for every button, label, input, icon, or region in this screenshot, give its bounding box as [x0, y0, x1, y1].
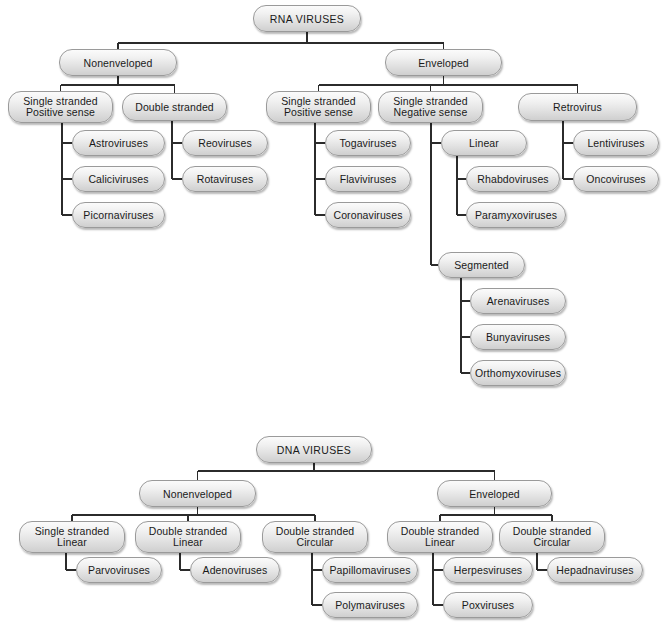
node-rna-flaviviruses: Flaviviruses [325, 166, 411, 192]
node-rna-e-ss-neg: Single stranded Negative sense [378, 91, 483, 123]
node-rna-segmented: Segmented [438, 252, 525, 278]
node-rna-caliciviruses: Caliciviruses [72, 166, 165, 192]
node-rna-root: RNA VIRUSES [253, 5, 361, 32]
node-rna-oncoviruses: Oncoviruses [573, 166, 659, 192]
node-dna-ne-ds-circular: Double stranded Circular [262, 521, 368, 553]
node-rna-rhabdoviruses: Rhabdoviruses [466, 166, 560, 192]
node-dna-root: DNA VIRUSES [256, 436, 372, 463]
node-rna-arenaviruses: Arenaviruses [470, 288, 566, 314]
node-dna-hepadnaviruses: Hepadnaviruses [547, 557, 643, 583]
node-rna-e-ss-pos: Single stranded Positive sense [266, 91, 371, 123]
node-dna-adenoviruses: Adenoviruses [190, 557, 280, 583]
node-dna-nonenveloped: Nonenveloped [139, 480, 256, 507]
node-rna-bunyaviruses: Bunyaviruses [470, 324, 566, 350]
node-rna-coronaviruses: Coronaviruses [325, 202, 411, 228]
node-rna-ne-ds: Double stranded [122, 93, 227, 121]
node-rna-enveloped: Enveloped [385, 49, 502, 76]
node-dna-enveloped: Enveloped [437, 480, 552, 507]
node-rna-lentiviruses: Lentiviruses [573, 130, 659, 156]
node-rna-astroviruses: Astroviruses [72, 130, 165, 156]
node-rna-picornaviruses: Picornaviruses [72, 202, 165, 228]
node-rna-reoviruses: Reoviruses [182, 130, 268, 156]
node-dna-e-ds-circular: Double stranded Circular [499, 521, 605, 553]
node-dna-ne-ds-linear: Double stranded Linear [135, 521, 241, 553]
node-rna-linear: Linear [441, 130, 527, 156]
virus-classification-diagram: RNA VIRUSESNonenvelopedEnvelopedSingle s… [0, 0, 665, 632]
node-rna-orthomyxoviruses: Orthomyxoviruses [470, 360, 566, 386]
node-dna-parvoviruses: Parvoviruses [76, 557, 162, 583]
node-rna-togaviruses: Togaviruses [325, 130, 411, 156]
node-dna-polymaviruses: Polymaviruses [322, 592, 418, 618]
node-rna-paramyxoviruses: Paramyxoviruses [466, 202, 566, 228]
node-dna-papillomaviruses: Papillomaviruses [322, 557, 418, 583]
node-dna-ne-ss-linear: Single stranded Linear [19, 521, 125, 553]
node-rna-retrovirus: Retrovirus [518, 93, 637, 121]
node-rna-rotaviruses: Rotaviruses [182, 166, 268, 192]
node-dna-herpesviruses: Herpesviruses [443, 557, 533, 583]
node-dna-e-ds-linear: Double stranded Linear [387, 521, 493, 553]
node-rna-nonenveloped: Nonenveloped [59, 49, 177, 76]
node-dna-poxviruses: Poxviruses [443, 592, 533, 618]
node-rna-ne-ss-pos: Single stranded Positive sense [8, 91, 113, 123]
